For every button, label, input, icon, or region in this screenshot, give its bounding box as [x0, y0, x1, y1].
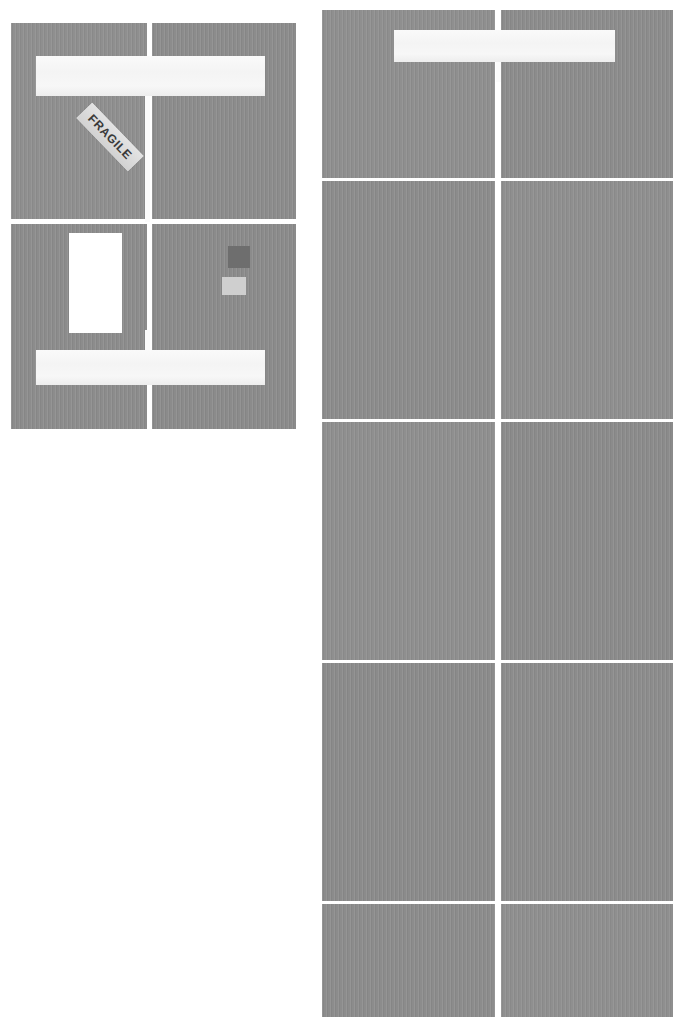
right-carton-tape-top: [394, 30, 615, 62]
right-carton-panel-r5c1: [322, 904, 495, 1017]
right-carton-panel-r5c2: [501, 904, 673, 1017]
fragile-sticker-label: FRAGILE: [85, 112, 135, 163]
scene-canvas: FRAGILE: [0, 0, 675, 1017]
left-carton-tape-top: [36, 56, 265, 96]
left-carton-tape-spine-top: [145, 88, 150, 222]
right-carton-panel-r3c1: [322, 422, 495, 660]
right-carton-panel-r2c1: [322, 181, 495, 419]
swatch-dark: [228, 246, 250, 268]
fragile-sticker: FRAGILE: [78, 112, 140, 170]
right-carton-panel-r3c2: [501, 422, 673, 660]
left-carton-panel-bottom-right: [152, 224, 296, 429]
right-carton-panel-r2c2: [501, 181, 673, 419]
right-carton-panel-r4c1: [322, 663, 495, 901]
fragile-sticker-body: FRAGILE: [76, 103, 143, 172]
swatch-light: [222, 277, 246, 295]
left-carton-tape-bottom: [36, 350, 265, 385]
left-carton-panel-top-right: [152, 23, 296, 219]
right-carton-panel-r4c2: [501, 663, 673, 901]
shipping-label: [69, 233, 122, 333]
